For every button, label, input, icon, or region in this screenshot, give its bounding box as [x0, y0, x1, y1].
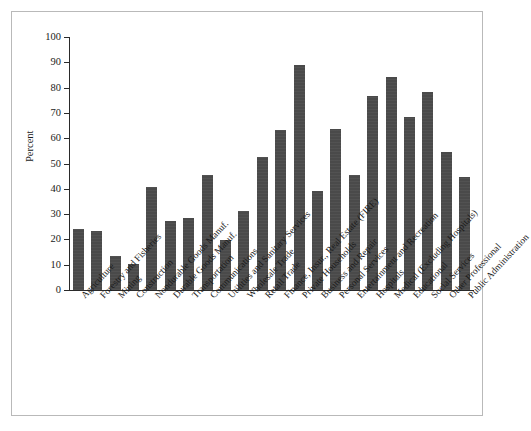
y-axis-tick-mark	[64, 214, 69, 215]
y-axis-line	[69, 37, 70, 290]
y-axis-tick-mark	[64, 239, 69, 240]
y-axis-tick-mark	[64, 88, 69, 89]
y-axis-tick-label: 60	[51, 133, 62, 144]
plot-area: 1009080706050403020100 AgricultureForest…	[69, 37, 474, 290]
bar	[294, 65, 305, 290]
y-axis-tick-mark	[64, 265, 69, 266]
y-axis-title: Percent	[24, 131, 35, 163]
y-axis-tick-mark	[64, 138, 69, 139]
y-axis-tick-label: 50	[51, 158, 62, 169]
y-axis-tick-label: 90	[51, 57, 62, 68]
y-axis-tick-label: 0	[56, 285, 61, 296]
y-axis-tick-label: 80	[51, 82, 62, 93]
y-axis-tick-mark	[64, 62, 69, 63]
y-axis-tick-label: 100	[45, 32, 61, 43]
y-axis-tick-label: 40	[51, 184, 62, 195]
y-axis-tick-label: 30	[51, 209, 62, 220]
y-axis-tick-mark	[64, 164, 69, 165]
y-axis-tick-label: 10	[51, 259, 62, 270]
y-axis-tick-mark	[64, 37, 69, 38]
figure-frame: Percent 1009080706050403020100 Agricultu…	[11, 11, 483, 416]
y-axis-tick-mark	[64, 290, 69, 291]
y-axis-tick-label: 20	[51, 234, 62, 245]
bar	[73, 229, 84, 290]
y-axis-tick-mark	[64, 189, 69, 190]
bar	[404, 117, 415, 290]
y-axis-tick-label: 70	[51, 108, 62, 119]
y-axis-tick-mark	[64, 113, 69, 114]
